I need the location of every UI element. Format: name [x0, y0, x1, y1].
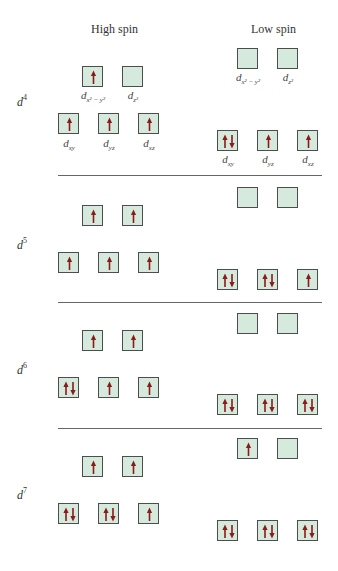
spin-pair-arrows-icon	[99, 504, 120, 525]
orbital-box-low-spin-d5-dx2-y2	[237, 187, 258, 208]
spin-up-arrow-icon	[59, 114, 80, 135]
spin-up-arrow-icon	[298, 131, 319, 152]
spin-up-arrow-icon	[139, 378, 160, 399]
spin-up-arrow-icon	[99, 253, 120, 274]
orbital-label-dz2: dz²	[113, 89, 153, 104]
orbital-box-high-spin-d7-dz2	[122, 456, 143, 477]
orbital-label-dx2-y2: dx² − y²	[228, 71, 268, 86]
spin-pair-arrows-icon	[218, 521, 239, 542]
orbital-box-low-spin-d6-dxz	[297, 394, 318, 415]
orbital-box-low-spin-d4-dx2-y2	[237, 48, 258, 69]
orbital-box-low-spin-d6-dx2-y2	[237, 313, 258, 334]
orbital-box-high-spin-d6-dz2	[122, 330, 143, 351]
orbital-box-low-spin-d6-dz2	[277, 313, 298, 334]
orbital-label-dx2-y2: dx² − y²	[73, 89, 113, 104]
orbital-box-low-spin-d5-dxy	[217, 269, 238, 290]
orbital-box-high-spin-d4-dxy	[58, 113, 79, 134]
config-label-d5: d5	[17, 236, 27, 253]
spin-up-arrow-icon	[139, 114, 160, 135]
spin-pair-arrows-icon	[298, 521, 319, 542]
orbital-label-dxy: dxy	[49, 137, 89, 152]
spin-up-arrow-icon	[139, 253, 160, 274]
orbital-box-high-spin-d5-dx2-y2	[82, 205, 103, 226]
orbital-box-low-spin-d5-dyz	[257, 269, 278, 290]
orbital-box-low-spin-d6-dxy	[217, 394, 238, 415]
orbital-label-dxy: dxy	[208, 153, 248, 168]
spin-pair-arrows-icon	[298, 395, 319, 416]
orbital-box-high-spin-d4-dxz	[138, 113, 159, 134]
orbital-box-high-spin-d6-dxz	[138, 377, 159, 398]
spin-pair-arrows-icon	[218, 131, 239, 152]
spin-pair-arrows-icon	[258, 395, 279, 416]
spin-up-arrow-icon	[83, 457, 104, 478]
orbital-box-low-spin-d7-dz2	[277, 438, 298, 459]
orbital-box-high-spin-d7-dx2-y2	[82, 456, 103, 477]
orbital-box-low-spin-d4-dz2	[277, 48, 298, 69]
orbital-box-high-spin-d6-dx2-y2	[82, 330, 103, 351]
spin-pair-arrows-icon	[218, 270, 239, 291]
orbital-box-low-spin-d4-dxz	[297, 130, 318, 151]
orbital-label-dxz: dxz	[129, 137, 169, 152]
separator-line	[58, 302, 322, 303]
spin-up-arrow-icon	[83, 206, 104, 227]
spin-up-arrow-icon	[258, 131, 279, 152]
spin-up-arrow-icon	[298, 270, 319, 291]
orbital-box-low-spin-d5-dz2	[277, 187, 298, 208]
orbital-box-low-spin-d6-dyz	[257, 394, 278, 415]
spin-pair-arrows-icon	[218, 395, 239, 416]
high-spin-heading: High spin	[91, 22, 138, 37]
orbital-box-high-spin-d7-dyz	[98, 503, 119, 524]
orbital-box-high-spin-d4-dyz	[98, 113, 119, 134]
spin-up-arrow-icon	[139, 504, 160, 525]
orbital-box-low-spin-d7-dxy	[217, 520, 238, 541]
config-label-d7: d7	[17, 486, 27, 503]
spin-up-arrow-icon	[59, 253, 80, 274]
orbital-box-high-spin-d5-dxy	[58, 252, 79, 273]
low-spin-heading: Low spin	[251, 22, 296, 37]
spin-up-arrow-icon	[238, 439, 259, 460]
spin-up-arrow-icon	[99, 378, 120, 399]
spin-pair-arrows-icon	[258, 270, 279, 291]
orbital-box-low-spin-d4-dyz	[257, 130, 278, 151]
orbital-box-low-spin-d7-dxz	[297, 520, 318, 541]
spin-up-arrow-icon	[123, 206, 144, 227]
orbital-box-high-spin-d7-dxy	[58, 503, 79, 524]
spin-pair-arrows-icon	[59, 378, 80, 399]
orbital-box-high-spin-d5-dxz	[138, 252, 159, 273]
separator-line	[58, 428, 322, 429]
spin-up-arrow-icon	[83, 67, 104, 88]
separator-line	[58, 175, 322, 176]
config-label-d6: d6	[17, 361, 27, 378]
orbital-box-high-spin-d5-dyz	[98, 252, 119, 273]
spin-up-arrow-icon	[99, 114, 120, 135]
orbital-box-low-spin-d7-dx2-y2	[237, 438, 258, 459]
orbital-box-low-spin-d4-dxy	[217, 130, 238, 151]
spin-pair-arrows-icon	[59, 504, 80, 525]
spin-up-arrow-icon	[123, 457, 144, 478]
orbital-box-high-spin-d6-dxy	[58, 377, 79, 398]
orbital-box-high-spin-d4-dz2	[122, 66, 143, 87]
config-label-d4: d4	[17, 93, 27, 110]
orbital-box-high-spin-d4-dx2-y2	[82, 66, 103, 87]
orbital-label-dz2: dz²	[268, 71, 308, 86]
spin-pair-arrows-icon	[258, 521, 279, 542]
orbital-box-low-spin-d5-dxz	[297, 269, 318, 290]
orbital-box-high-spin-d7-dxz	[138, 503, 159, 524]
orbital-box-low-spin-d7-dyz	[257, 520, 278, 541]
orbital-label-dyz: dyz	[248, 153, 288, 168]
spin-up-arrow-icon	[83, 331, 104, 352]
orbital-box-high-spin-d6-dyz	[98, 377, 119, 398]
spin-up-arrow-icon	[123, 331, 144, 352]
orbital-label-dxz: dxz	[288, 153, 328, 168]
orbital-box-high-spin-d5-dz2	[122, 205, 143, 226]
orbital-label-dyz: dyz	[89, 137, 129, 152]
